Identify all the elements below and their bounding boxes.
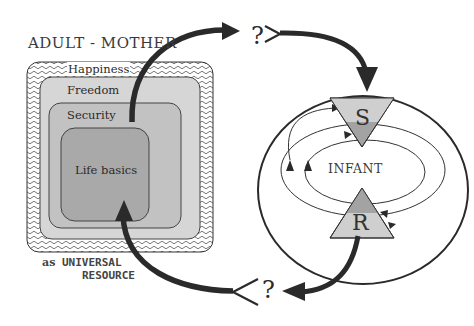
freedom-label: Freedom: [67, 83, 119, 97]
arrowhead-down-icon: [356, 67, 378, 92]
bottom-question-mark: ?: [262, 276, 275, 304]
resource-caption-line2: RESOURCE: [82, 269, 135, 282]
arrowhead-left-icon: [282, 282, 305, 301]
resource-caption-line1: as UNIVERSAL: [42, 256, 122, 269]
happiness-label: Happiness: [67, 62, 130, 76]
resource-prefix: as: [42, 256, 55, 269]
top-fork-icon: [265, 26, 280, 42]
security-label: Security: [67, 108, 116, 122]
diagram-title: ADULT - MOTHER: [28, 34, 177, 52]
resource-word-universal: UNIVERSAL: [62, 256, 122, 269]
top-arrow-to-infant: [280, 33, 366, 72]
top-question-mark: ?: [251, 22, 264, 50]
s-triangle-label: S: [355, 105, 370, 130]
life-basics-label: Life basics: [75, 163, 137, 177]
r-triangle-label: R: [352, 210, 369, 235]
arrowhead-right-icon: [222, 22, 240, 40]
infant-label: INFANT: [328, 161, 383, 176]
bottom-fork-icon: [233, 279, 258, 305]
